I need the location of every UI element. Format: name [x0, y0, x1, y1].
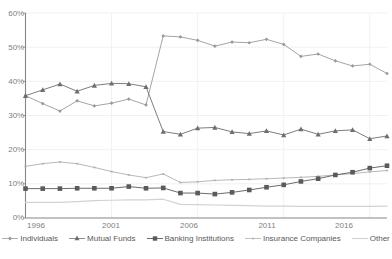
series-other	[26, 199, 388, 206]
data-point-marker	[59, 161, 61, 163]
data-point-marker	[161, 186, 166, 191]
data-point-marker	[58, 186, 63, 191]
data-point-marker	[145, 177, 147, 179]
series-line	[26, 199, 388, 206]
data-point-marker	[195, 191, 200, 196]
legend-item-banking-institutions[interactable]: Banking Institutions	[147, 234, 234, 243]
data-point-marker	[178, 191, 183, 196]
data-point-marker	[316, 52, 320, 56]
series-insurance-companies	[24, 161, 388, 183]
data-point-marker	[351, 64, 355, 68]
data-point-marker	[144, 103, 148, 107]
series-individuals	[24, 34, 389, 113]
data-point-marker	[367, 166, 372, 171]
data-point-marker	[126, 184, 131, 189]
data-point-marker	[230, 40, 234, 44]
data-point-marker	[247, 188, 252, 193]
data-point-marker	[76, 163, 78, 165]
data-point-marker	[385, 72, 389, 76]
data-point-marker	[369, 171, 371, 173]
data-point-marker	[196, 38, 200, 42]
data-point-marker	[128, 174, 130, 176]
legend-item-other[interactable]: Other	[352, 234, 390, 243]
data-point-marker	[298, 127, 303, 132]
legend-marker-other	[352, 234, 368, 243]
data-point-marker	[386, 170, 388, 172]
legend-label-banking-institutions: Banking Institutions	[165, 234, 234, 243]
data-point-marker	[127, 97, 131, 101]
legend-item-mutual-funds[interactable]: Mutual Funds	[69, 234, 135, 243]
data-point-marker	[231, 179, 233, 181]
data-point-marker	[283, 177, 285, 179]
series-line	[26, 166, 388, 194]
data-point-marker	[161, 129, 166, 134]
cut-off-footnote	[2, 250, 242, 257]
data-point-marker	[213, 192, 218, 197]
data-point-marker	[264, 128, 269, 133]
data-point-marker	[264, 185, 269, 190]
data-point-marker	[214, 180, 216, 182]
data-point-marker	[300, 177, 302, 179]
data-point-marker	[384, 133, 389, 138]
plot-area	[0, 0, 392, 259]
data-point-marker	[316, 176, 321, 181]
data-point-marker	[247, 41, 251, 45]
data-point-marker	[248, 179, 250, 181]
legend-label-mutual-funds: Mutual Funds	[87, 234, 135, 243]
series-mutual-funds	[23, 81, 390, 141]
series-line	[26, 83, 388, 138]
data-point-marker	[265, 37, 269, 41]
legend-label-other: Other	[370, 234, 390, 243]
data-point-marker	[93, 104, 97, 108]
data-point-marker	[110, 171, 112, 173]
legend-marker-individuals	[2, 234, 18, 243]
data-point-marker	[265, 178, 267, 180]
legend-label-individuals: Individuals	[20, 234, 58, 243]
data-point-marker	[179, 182, 181, 184]
data-point-marker	[42, 163, 44, 165]
data-point-marker	[40, 186, 45, 191]
data-point-marker	[41, 102, 45, 106]
data-point-marker	[230, 190, 235, 195]
data-point-marker	[333, 173, 338, 178]
data-point-marker	[299, 179, 304, 184]
data-point-marker	[23, 186, 28, 191]
data-point-marker	[350, 170, 355, 175]
legend-marker-banking-institutions	[147, 234, 163, 243]
data-point-marker	[24, 166, 26, 168]
legend-marker-mutual-funds	[69, 234, 85, 243]
data-point-marker	[179, 35, 183, 39]
data-point-marker	[144, 186, 149, 191]
data-point-marker	[281, 183, 286, 188]
chart-legend: Individuals Mutual Funds Banking Institu…	[0, 234, 392, 243]
data-point-marker	[110, 101, 114, 105]
data-point-marker	[93, 167, 95, 169]
data-point-marker	[75, 186, 80, 191]
data-point-marker	[92, 186, 97, 191]
data-point-marker	[161, 34, 165, 38]
data-point-marker	[385, 163, 390, 168]
legend-item-insurance-companies[interactable]: Insurance Companies	[245, 234, 341, 243]
data-point-marker	[368, 62, 372, 66]
legend-marker-insurance-companies	[245, 234, 261, 243]
data-point-marker	[197, 181, 199, 183]
legend-item-individuals[interactable]: Individuals	[2, 234, 58, 243]
data-point-marker	[109, 186, 114, 191]
data-point-marker	[57, 81, 62, 86]
data-point-marker	[162, 173, 164, 175]
data-point-marker	[334, 59, 338, 63]
series-banking-institutions	[23, 163, 389, 196]
series-line	[26, 162, 388, 183]
chart-container: 60% 50% 40% 30% 20% 10% 0% 1996 2001 200…	[0, 0, 392, 259]
legend-label-insurance-companies: Insurance Companies	[263, 234, 341, 243]
